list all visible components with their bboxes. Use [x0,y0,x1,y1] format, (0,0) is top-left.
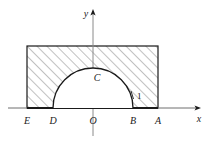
label-C: C [94,72,101,83]
label-B: B [130,115,136,126]
label-A: A [154,115,162,126]
y-axis-label: y [83,8,89,19]
label-D: D [48,115,57,126]
x-axis-label: x [196,113,202,124]
label-E: E [23,115,30,126]
geometry-canvas: E D O B A C 1 y x [0,0,212,144]
geometry-figure: E D O B A C 1 y x [0,0,212,144]
label-radius-measure: 1 [137,91,142,101]
label-O: O [89,115,96,126]
